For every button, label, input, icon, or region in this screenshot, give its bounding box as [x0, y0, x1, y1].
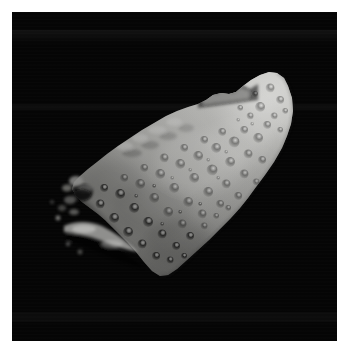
- asteroid-figure: [12, 12, 337, 341]
- photo-frame: Grayscale spacecraft photograph of an ir…: [0, 0, 345, 350]
- image-plate: [12, 12, 337, 341]
- asteroid-surface: [12, 12, 337, 341]
